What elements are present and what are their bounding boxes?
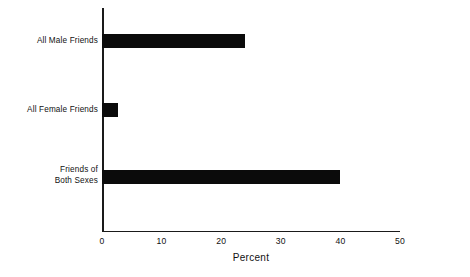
category-label-text: All Male Friends: [37, 36, 98, 45]
x-tick-label-40: 40: [320, 236, 360, 246]
x-tick-label-30: 30: [261, 236, 301, 246]
bar-friends-of-both-sexes: [102, 170, 340, 184]
category-label-all-female-friends: All Female Friends: [0, 105, 98, 116]
bar-row: [102, 170, 340, 184]
bar-all-male-friends: [102, 34, 245, 48]
category-label-all-male-friends: All Male Friends: [0, 36, 98, 47]
bar-row: [102, 103, 118, 117]
bar-row: [102, 34, 245, 48]
bar-all-female-friends: [102, 103, 118, 117]
x-tick-label-50: 50: [380, 236, 420, 246]
plot-area: [102, 8, 400, 232]
x-tick-label-10: 10: [142, 236, 182, 246]
x-axis-title: Percent: [102, 252, 400, 263]
x-tick-label-0: 0: [82, 236, 122, 246]
category-label-text-line1: Friends of: [0, 165, 98, 176]
category-label-text-line2: Both Sexes: [0, 176, 98, 187]
category-label-text: All Female Friends: [27, 105, 98, 114]
category-label-friends-of-both-sexes: Friends of Both Sexes: [0, 165, 98, 186]
x-tick-label-20: 20: [201, 236, 241, 246]
bar-chart-figure: All Male Friends All Female Friends Frie…: [0, 0, 470, 277]
